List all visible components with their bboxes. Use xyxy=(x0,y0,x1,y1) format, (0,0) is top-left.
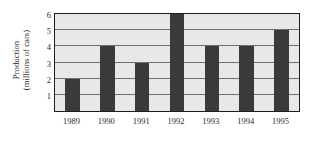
x-axis-tick-label: 1991 xyxy=(133,116,150,126)
x-axis-tick-label: 1994 xyxy=(237,116,254,126)
y-axis-tick-label: 3 xyxy=(47,59,51,68)
plot-area xyxy=(54,13,300,112)
y-axis-tick-label: 6 xyxy=(47,11,51,20)
x-axis-tick-labels: 1989199019911992199319941995 xyxy=(54,116,300,130)
y-axis-title-line-2: (millions of cars) xyxy=(21,30,31,90)
y-axis-tick-label: 1 xyxy=(47,92,51,101)
x-axis-tick-label: 1990 xyxy=(98,116,115,126)
bar xyxy=(135,63,150,112)
y-axis-title: Production (millions of cars) xyxy=(0,0,42,120)
x-axis-tick-label: 1995 xyxy=(272,116,289,126)
bar xyxy=(65,79,80,111)
bar xyxy=(239,46,254,111)
bar xyxy=(274,30,289,111)
x-axis-tick-label: 1993 xyxy=(202,116,219,126)
bar xyxy=(100,46,115,111)
y-axis-title-text: Production (millions of cars) xyxy=(11,30,31,90)
y-axis-tick-label: 5 xyxy=(47,27,51,36)
bar xyxy=(205,46,220,111)
y-axis-tick-label: 2 xyxy=(47,75,51,84)
x-axis-tick-label: 1992 xyxy=(168,116,185,126)
x-axis-tick-label: 1989 xyxy=(63,116,80,126)
y-axis-tick-labels: 123456 xyxy=(40,8,53,112)
y-axis-tick-label: 4 xyxy=(47,43,51,52)
bar-series xyxy=(55,14,299,111)
bar xyxy=(170,14,185,111)
bar-chart-figure: Production (millions of cars) 123456 198… xyxy=(0,0,314,142)
y-axis-title-line-1: Production xyxy=(11,30,21,90)
